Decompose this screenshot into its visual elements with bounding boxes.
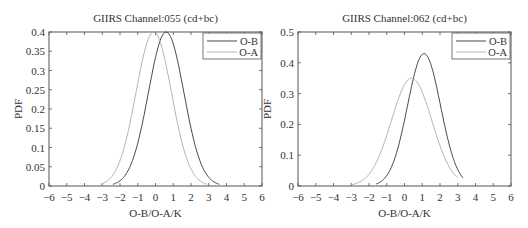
x-tick-label: −2 [114, 191, 126, 203]
x-tick-label: 5 [242, 191, 248, 203]
x-tick-label: −6 [292, 191, 304, 203]
x-tick-label: 6 [259, 191, 265, 203]
x-tick-label: −1 [132, 191, 144, 203]
y-tick-label: 0.25 [26, 84, 46, 96]
series-line-o-a [101, 32, 208, 184]
x-tick-label: −3 [96, 191, 108, 203]
figure: GIIRS Channel:055 (cd+bc)−6−5−4−3−2−1012… [0, 0, 528, 228]
y-tick-label: 0.2 [280, 118, 294, 130]
y-tick-label: 0.15 [26, 122, 46, 134]
x-tick-label: 0 [402, 191, 408, 203]
series-line-o-a [351, 78, 458, 185]
y-tick-label: 0.3 [31, 65, 45, 77]
legend-label: O-A [239, 47, 258, 58]
y-axis-label: PDF [261, 99, 273, 119]
y-tick-label: 0.4 [280, 57, 294, 69]
x-tick-label: 2 [437, 191, 443, 203]
x-tick-label: 0 [153, 191, 159, 203]
y-axis-label: PDF [12, 99, 24, 119]
x-tick-label: −6 [43, 191, 55, 203]
legend-label: O-B [240, 36, 258, 47]
x-tick-label: 1 [420, 191, 426, 203]
x-tick-label: 3 [455, 191, 461, 203]
x-tick-label: 4 [224, 191, 230, 203]
y-tick-label: 0.3 [280, 88, 294, 100]
x-tick-label: 5 [491, 191, 497, 203]
x-tick-label: 6 [508, 191, 514, 203]
chart-title: GIIRS Channel:055 (cd+bc) [93, 12, 218, 25]
x-tick-label: −2 [363, 191, 375, 203]
x-axis-label: O-B/O-A/K [129, 207, 182, 219]
y-tick-label: 0.05 [26, 161, 46, 173]
x-tick-label: −4 [328, 191, 340, 203]
x-axis-label: O-B/O-A/K [378, 207, 431, 219]
x-tick-label: −1 [381, 191, 393, 203]
y-tick-label: 0 [40, 180, 46, 192]
x-tick-label: 2 [188, 191, 194, 203]
x-tick-label: −4 [79, 191, 91, 203]
y-tick-label: 0.1 [280, 149, 294, 161]
x-tick-label: 3 [206, 191, 212, 203]
legend-label: O-A [488, 47, 507, 58]
y-tick-label: 0 [289, 180, 295, 192]
chart-title: GIIRS Channel:062 (cd+bc) [342, 12, 467, 25]
legend-label: O-B [489, 36, 507, 47]
y-tick-label: 0.2 [31, 103, 45, 115]
y-tick-label: 0.1 [31, 142, 45, 154]
charts-svg: GIIRS Channel:055 (cd+bc)−6−5−4−3−2−1012… [0, 0, 528, 228]
series-line-o-b [376, 54, 463, 184]
x-tick-label: −5 [310, 191, 322, 203]
y-tick-label: 0.35 [26, 45, 46, 57]
x-tick-label: 1 [171, 191, 177, 203]
x-tick-label: −3 [345, 191, 357, 203]
x-tick-label: 4 [473, 191, 479, 203]
x-tick-label: −5 [61, 191, 73, 203]
y-tick-label: 0.5 [280, 26, 294, 38]
y-tick-label: 0.4 [31, 26, 45, 38]
